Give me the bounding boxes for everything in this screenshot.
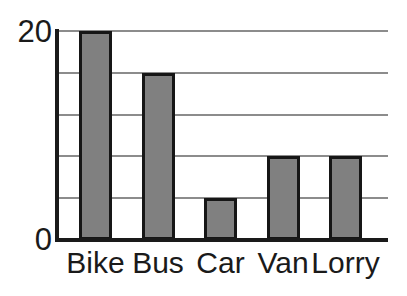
x-axis-labels: BikeBusCarVanLorry (57, 246, 407, 290)
bar-bike (79, 31, 112, 240)
bar-bus (142, 73, 175, 240)
y-axis-tick-label-20: 20 (0, 16, 52, 47)
x-axis-tick-label-lorry: Lorry (296, 246, 396, 279)
bar-chart: 20 0 BikeBusCarVanLorry (0, 0, 407, 296)
y-axis-tick-label-0: 0 (0, 224, 52, 255)
y-axis-line (55, 29, 59, 242)
plot-area (57, 31, 388, 240)
bar-lorry (329, 156, 362, 240)
bar-van (267, 156, 300, 240)
bar-car (204, 198, 237, 240)
x-axis-line (55, 238, 388, 242)
